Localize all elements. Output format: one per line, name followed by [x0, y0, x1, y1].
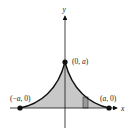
point-left: [17, 105, 22, 110]
label-right: (a, 0): [100, 94, 117, 103]
point-right: [106, 105, 111, 110]
shaded-region: [20, 62, 109, 108]
region-diagram: y x (0, a) (−a, 0) (a, 0): [0, 0, 140, 137]
x-axis-label: x: [120, 104, 125, 113]
point-top: [62, 59, 67, 64]
y-axis-label: y: [62, 5, 67, 14]
label-left: (−a, 0): [10, 94, 31, 103]
label-top: (0, a): [72, 57, 89, 66]
